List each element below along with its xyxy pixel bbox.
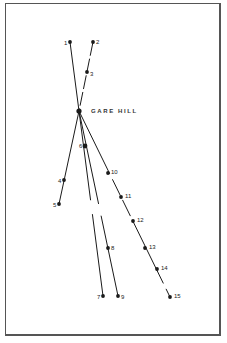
point-8-label: 8 — [111, 245, 115, 251]
point-12-marker — [131, 219, 135, 223]
point-2-marker — [91, 40, 95, 44]
point-11-marker — [119, 195, 123, 199]
point-1-marker — [68, 40, 72, 44]
point-6-marker — [83, 144, 88, 149]
sight-line-1-center — [70, 42, 79, 111]
point-5-marker — [57, 202, 61, 206]
point-3-label: 3 — [90, 71, 94, 77]
point-7-label: 7 — [97, 294, 101, 300]
point-1-label: 1 — [64, 40, 68, 46]
point-11-label: 11 — [125, 193, 132, 199]
point-9-marker — [116, 294, 120, 298]
point-2-label: 2 — [96, 39, 100, 45]
point-9-label: 9 — [121, 294, 125, 300]
point-6-label: 6 — [79, 143, 83, 149]
gare-hill-label: GARE HILL — [91, 108, 138, 114]
point-3-marker — [85, 70, 89, 74]
point-13-marker — [143, 246, 147, 250]
point-8-marker — [106, 246, 110, 250]
point-14-marker — [155, 267, 159, 271]
gare-hill-point — [76, 108, 81, 113]
gare-hill-radial-diagram: 123456789101112131415 GARE HILL — [0, 0, 227, 343]
survey-points: 123456789101112131415 — [53, 39, 181, 300]
sight-line-center-7 — [79, 111, 103, 296]
point-13-label: 13 — [149, 244, 156, 250]
point-12-label: 12 — [137, 217, 144, 223]
point-15-label: 15 — [174, 293, 181, 299]
point-7-marker — [101, 294, 105, 298]
sight-line-center-5 — [59, 111, 79, 204]
point-4-marker — [62, 178, 66, 182]
point-10-label: 10 — [111, 169, 118, 175]
point-5-label: 5 — [53, 202, 57, 208]
point-10-marker — [106, 171, 110, 175]
point-4-label: 4 — [58, 178, 62, 184]
point-14-label: 14 — [161, 265, 168, 271]
sight-line-center-9 — [79, 111, 118, 296]
point-15-marker — [168, 295, 172, 299]
